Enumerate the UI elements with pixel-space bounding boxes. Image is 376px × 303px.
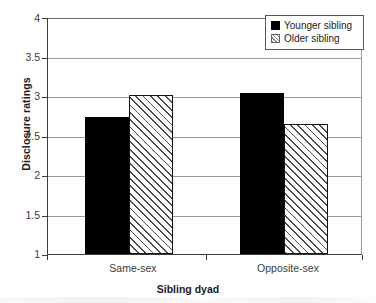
y-tick-label-1: 1 <box>8 249 40 259</box>
x-tick-mark-center <box>206 255 207 260</box>
y-tick-label-1-5: 1.5 <box>8 210 40 220</box>
x-tick-mark-right <box>362 255 363 260</box>
scan-artifact <box>0 297 376 303</box>
legend-swatch-hatched-icon <box>271 34 280 43</box>
chart-legend: Younger sibling Older sibling <box>265 15 364 50</box>
bar-opposite-sex-younger-sibling <box>240 93 284 254</box>
plot-right-edge <box>361 18 362 254</box>
x-axis-title: Sibling dyad <box>0 283 376 295</box>
y-tick-label-4: 4 <box>8 13 40 23</box>
x-category-label-same-sex: Same-sex <box>86 262 180 274</box>
legend-item-older-sibling: Older sibling <box>271 32 359 45</box>
x-category-label-opposite-sex: Opposite-sex <box>238 262 338 274</box>
x-tick-mark-left <box>47 255 48 260</box>
legend-label-younger-sibling: Younger sibling <box>284 20 352 31</box>
bar-chart-figure: Disclosure ratings 4 3.5 3 2.5 2 1.5 1 S… <box>0 0 376 303</box>
legend-swatch-solid-icon <box>271 21 280 30</box>
y-tick-label-2-5: 2.5 <box>8 131 40 141</box>
gridline-3 <box>48 97 362 98</box>
y-tick-label-3: 3 <box>8 91 40 101</box>
bar-same-sex-younger-sibling <box>85 117 129 254</box>
y-tick-label-3-5: 3.5 <box>8 52 40 62</box>
legend-item-younger-sibling: Younger sibling <box>271 19 359 32</box>
y-tick-label-2: 2 <box>8 170 40 180</box>
bar-same-sex-older-sibling <box>129 95 173 254</box>
legend-label-older-sibling: Older sibling <box>284 33 340 44</box>
gridline-3-5 <box>48 58 362 59</box>
plot-area <box>47 18 362 255</box>
bar-opposite-sex-older-sibling <box>284 124 328 254</box>
